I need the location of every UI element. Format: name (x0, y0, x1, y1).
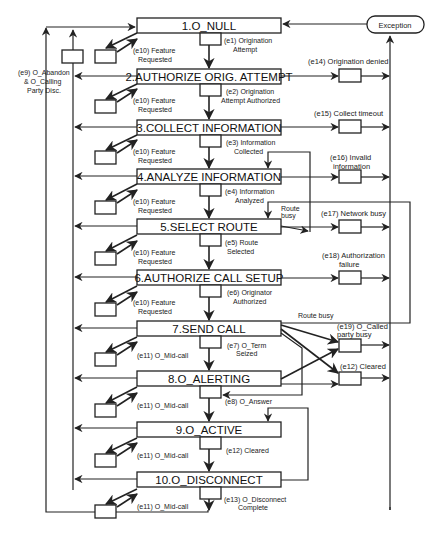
svg-text:Analyzed: Analyzed (235, 197, 264, 205)
state-5-select-route: 5.SELECT ROUTE (137, 219, 281, 234)
feature-request-boxes (95, 50, 116, 518)
route-busy-label-a2: busy (281, 212, 296, 220)
svg-text:(e10) Feature: (e10) Feature (133, 97, 176, 105)
svg-text:Seized: Seized (236, 350, 258, 357)
svg-text:Requested: Requested (138, 207, 172, 215)
svg-text:(e12) Cleared: (e12) Cleared (226, 447, 269, 455)
svg-text:Attempt Authorized: Attempt Authorized (221, 97, 280, 105)
svg-text:4.ANALYZE INFORMATION: 4.ANALYZE INFORMATION (137, 171, 281, 183)
state-10-o-disconnect: 10.O_DISCONNECT (137, 472, 281, 487)
svg-text:Selected: Selected (227, 248, 254, 255)
svg-text:(e11) O_Mid-call: (e11) O_Mid-call (137, 402, 189, 410)
svg-text:(e5) Route: (e5) Route (225, 239, 258, 247)
state-6-authorize-call-setup: 6.AUTHORIZE CALL SETUP (134, 270, 283, 285)
svg-text:(e6) Originator: (e6) Originator (227, 289, 273, 297)
svg-text:information: information (333, 162, 370, 171)
svg-text:failure: failure (339, 260, 359, 269)
state-8-o-alerting: 8.O_ALERTING (137, 371, 281, 386)
route-busy-label-b: Route busy (298, 312, 334, 320)
svg-text:Requested: Requested (138, 258, 172, 266)
state-2-authorize-orig-attempt: 2.AUTHORIZE ORIG. ATTEMPT (125, 69, 292, 84)
svg-text:(e3) Information: (e3) Information (226, 139, 276, 147)
svg-text:Requested: Requested (138, 56, 172, 64)
state-1-null: 1.O_NULL (137, 18, 281, 33)
state-return-arrows (75, 76, 137, 479)
exception-arrows (281, 76, 389, 384)
disconnect-to-active-loop (268, 408, 308, 480)
svg-text:(e2) Origination: (e2) Origination (226, 88, 274, 96)
svg-text:(e18) Authorization: (e18) Authorization (322, 251, 385, 260)
svg-text:(e12) Cleared: (e12) Cleared (340, 362, 386, 371)
svg-text:7.SEND CALL: 7.SEND CALL (172, 323, 246, 335)
svg-text:Requested: Requested (138, 308, 172, 316)
state-9-o-active: 9.O_ACTIVE (137, 422, 281, 437)
svg-text:6.AUTHORIZE CALL SETUP: 6.AUTHORIZE CALL SETUP (134, 272, 283, 284)
svg-text:2.AUTHORIZE ORIG. ATTEMPT: 2.AUTHORIZE ORIG. ATTEMPT (125, 71, 292, 83)
svg-text:party busy: party busy (337, 330, 372, 339)
abandon-label-1: (e9) O_Abandon (18, 69, 70, 77)
svg-text:(e15) Collect timeout: (e15) Collect timeout (314, 109, 384, 118)
state-7-send-call: 7.SEND CALL (137, 321, 281, 336)
abandon-label-2: & O_Calling (24, 78, 61, 86)
svg-text:(e10) Feature: (e10) Feature (133, 198, 176, 206)
state-3-collect-information: 3.COLLECT INFORMATION (136, 120, 281, 135)
exception-node: Exception (367, 16, 424, 33)
svg-text:9.O_ACTIVE: 9.O_ACTIVE (176, 424, 243, 436)
exception-labels: (e14) Origination denied (e15) Collect t… (308, 57, 388, 371)
svg-text:Collected: Collected (234, 148, 263, 155)
svg-text:Requested: Requested (138, 106, 172, 114)
svg-text:(e8) O_Answer: (e8) O_Answer (225, 398, 273, 406)
svg-text:(e16) Invalid: (e16) Invalid (330, 153, 371, 162)
pic-box-abandon (62, 50, 83, 63)
svg-text:(e11) O_Mid-call: (e11) O_Mid-call (137, 452, 189, 460)
svg-text:1.O_NULL: 1.O_NULL (182, 20, 237, 32)
svg-text:(e10) Feature: (e10) Feature (133, 47, 176, 55)
svg-text:(e1) Origination: (e1) Origination (224, 37, 272, 45)
svg-text:(e10) Feature: (e10) Feature (133, 148, 176, 156)
svg-text:Authorized: Authorized (233, 298, 267, 305)
svg-text:Exception: Exception (379, 21, 412, 30)
abandon-label-3: Party Disc. (27, 87, 61, 95)
svg-text:(e11) O_Mid-call: (e11) O_Mid-call (137, 352, 189, 360)
svg-text:(e13) O_Disconnect: (e13) O_Disconnect (224, 496, 286, 504)
svg-text:(e10) Feature: (e10) Feature (133, 249, 176, 257)
svg-text:(e10) Feature: (e10) Feature (133, 299, 176, 307)
bcsm-diagram: (e9) O_Abandon & O_Calling Party Disc. (0, 0, 426, 555)
svg-text:(e17) Network busy: (e17) Network busy (321, 209, 386, 218)
svg-text:(e4) Information: (e4) Information (225, 188, 275, 196)
svg-text:(e7) O_Term: (e7) O_Term (227, 342, 266, 350)
svg-text:Complete: Complete (238, 504, 268, 512)
route-busy-label-a1: Route (281, 205, 300, 212)
svg-text:(e14) Origination denied: (e14) Origination denied (308, 57, 388, 66)
svg-text:5.SELECT ROUTE: 5.SELECT ROUTE (160, 221, 258, 233)
svg-text:10.O_DISCONNECT: 10.O_DISCONNECT (155, 474, 262, 486)
svg-text:3.COLLECT INFORMATION: 3.COLLECT INFORMATION (136, 122, 281, 134)
svg-text:Requested: Requested (138, 157, 172, 165)
state-4-analyze-information: 4.ANALYZE INFORMATION (137, 169, 281, 184)
svg-text:Attempt: Attempt (233, 46, 257, 54)
svg-text:(e11) O_Mid-call: (e11) O_Mid-call (137, 503, 189, 511)
svg-text:8.O_ALERTING: 8.O_ALERTING (168, 373, 250, 385)
